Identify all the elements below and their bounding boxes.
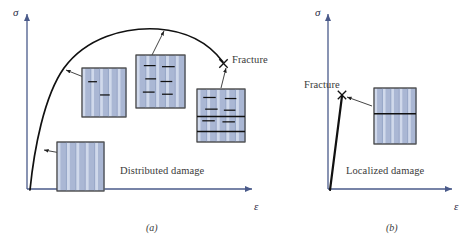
specimen-distributed-damage (136, 55, 185, 108)
panel-a-fracture-label: Fracture (232, 54, 268, 65)
panel-a-fracture-marker (219, 59, 227, 67)
panel-a-distributed-damage: σ ε Distributed damage Fracture (a) (0, 0, 290, 248)
panel-a-drawing (0, 0, 290, 248)
panel-b-regime-label: Localized damage (346, 165, 424, 176)
panel-b-fracture-label: Fracture (304, 79, 340, 90)
specimen-near-fracture (197, 89, 245, 142)
panel-a-leader-2 (152, 31, 164, 55)
panel-b-caption: (b) (386, 222, 398, 233)
specimen-undamaged (57, 142, 104, 191)
specimen-early-damage (82, 68, 126, 117)
panel-b-localized-damage: σ ε Localized damage Fracture (b) (290, 0, 476, 248)
specimen-localized-fracture (374, 88, 416, 144)
panel-a-regime-label: Distributed damage (120, 165, 204, 176)
panel-b-stress-strain-curve (330, 96, 342, 190)
panel-b-stress-axis-label: σ (315, 6, 320, 18)
panel-b-strain-axis-label: ε (454, 200, 458, 212)
panel-a-stress-axis-label: σ (13, 6, 18, 18)
panel-a-strain-axis-label: ε (254, 200, 258, 212)
panel-b-drawing (290, 0, 476, 248)
panel-b-leader-0 (347, 97, 372, 106)
panel-a-leader-3 (221, 68, 226, 88)
stress-strain-damage-figure: σ ε Distributed damage Fracture (a) σ ε … (0, 0, 476, 248)
panel-a-caption: (a) (146, 222, 158, 233)
